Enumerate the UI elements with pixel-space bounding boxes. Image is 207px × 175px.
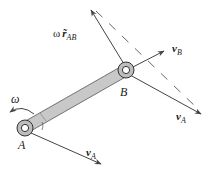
va-at-a-label: vA bbox=[86, 146, 96, 161]
pin-a bbox=[17, 120, 33, 136]
omega-rotation-arrow bbox=[10, 108, 34, 114]
omega-label: ω bbox=[11, 92, 19, 106]
angle-tick bbox=[42, 122, 43, 130]
omega-r-ab-arrow bbox=[91, 10, 124, 64]
vb-arrow bbox=[131, 51, 164, 68]
point-b-label: B bbox=[120, 85, 128, 99]
va-at-b-arrow bbox=[130, 75, 201, 114]
omega-r-ab-label: ωr̃AB bbox=[53, 27, 76, 42]
point-a-label: A bbox=[17, 138, 26, 152]
velocity-diagram: ω ωr̃AB vB B vA A vA bbox=[0, 0, 207, 175]
pin-b bbox=[118, 62, 134, 78]
va-at-b-label: vA bbox=[176, 110, 186, 125]
diagram-canvas: ω ωr̃AB vB B vA A vA bbox=[0, 0, 207, 175]
rod-ab bbox=[22, 66, 129, 132]
vb-label: vB bbox=[172, 42, 182, 57]
